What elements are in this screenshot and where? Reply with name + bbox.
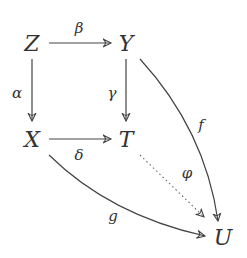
commutative-diagram: Z Y X T U β α γ δ f φ g bbox=[0, 0, 247, 258]
label-g: g bbox=[108, 209, 118, 224]
label-delta: δ bbox=[74, 148, 83, 163]
label-beta: β bbox=[75, 21, 84, 36]
label-gamma: γ bbox=[108, 86, 117, 101]
node-z: Z bbox=[24, 33, 39, 55]
label-f: f bbox=[198, 118, 204, 133]
label-alpha: α bbox=[12, 86, 22, 101]
arrow-f bbox=[140, 59, 218, 221]
node-t: T bbox=[119, 129, 134, 151]
node-u: U bbox=[214, 227, 233, 249]
node-y: Y bbox=[119, 33, 134, 55]
label-phi: φ bbox=[182, 166, 193, 181]
node-x: X bbox=[24, 129, 40, 151]
arrow-phi bbox=[140, 155, 204, 217]
